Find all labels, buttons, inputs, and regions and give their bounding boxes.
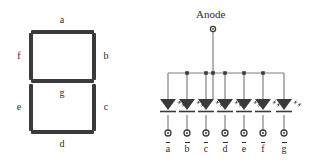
cathode-terminals xyxy=(165,130,287,136)
junction-dot-c xyxy=(204,71,208,75)
terminal-label-b: b xyxy=(180,142,194,154)
terminal-label-b-text: b xyxy=(185,142,190,154)
terminal-label-f: f xyxy=(256,142,270,154)
terminal-label-e: e xyxy=(237,142,251,154)
segment-a xyxy=(31,30,94,34)
anode-label: Anode xyxy=(196,8,225,20)
led-symbols xyxy=(160,99,302,112)
led-f xyxy=(255,99,281,112)
segment-d xyxy=(31,130,94,134)
segment-label-d: d xyxy=(56,139,68,149)
terminal-label-a-text: a xyxy=(166,142,170,154)
segment-label-c: c xyxy=(100,102,112,112)
terminal-c xyxy=(203,130,209,136)
segment-e xyxy=(29,84,33,131)
terminal-b xyxy=(184,130,190,136)
terminal-g xyxy=(281,130,287,136)
segment-label-f: f xyxy=(13,51,25,61)
segment-label-b: b xyxy=(100,51,112,61)
anode-terminal-dot xyxy=(212,28,214,30)
junction-dot-b xyxy=(185,71,189,75)
segment-label-a: a xyxy=(56,15,68,25)
segment-c xyxy=(92,84,96,131)
terminal-label-c-text: c xyxy=(204,142,208,154)
terminal-label-d-text: d xyxy=(223,142,228,154)
segment-label-e: e xyxy=(13,102,25,112)
terminal-label-a: a xyxy=(161,142,175,154)
terminal-e xyxy=(241,130,247,136)
junction-dot-e xyxy=(223,71,227,75)
terminal-label-g-text: g xyxy=(282,142,287,154)
led-circuit-schematic: Anode xyxy=(150,0,310,164)
terminal-label-e-text: e xyxy=(242,142,246,154)
junction-dot-f xyxy=(242,71,246,75)
terminal-label-c: c xyxy=(199,142,213,154)
junction-dot-g xyxy=(261,71,265,75)
segment-f xyxy=(29,33,33,80)
figure-canvas: a f b g e c d Anode xyxy=(0,0,310,164)
terminal-label-g: g xyxy=(277,142,291,154)
seven-segment-display: a f b g e c d xyxy=(0,0,150,164)
segment-g xyxy=(31,79,94,83)
terminal-a xyxy=(165,130,171,136)
circuit-svg xyxy=(150,0,310,164)
terminal-label-f-text: f xyxy=(261,142,264,154)
terminal-label-d: d xyxy=(218,142,232,154)
led-g xyxy=(276,99,302,112)
segment-b xyxy=(92,33,96,80)
terminal-d xyxy=(222,130,228,136)
junction-dot-anode xyxy=(211,71,215,75)
terminal-f xyxy=(260,130,266,136)
segment-label-g: g xyxy=(56,88,68,98)
